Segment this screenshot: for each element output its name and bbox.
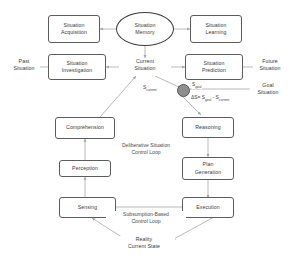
node-comprehension-label: Comprehension (66, 124, 104, 131)
node-situation-prediction[interactable]: SituationPrediction (185, 54, 243, 80)
node-comprehension[interactable]: Comprehension (55, 117, 115, 139)
label-delta-mid: - S (211, 95, 219, 100)
label-goal-situation: GoalSituation (250, 82, 286, 96)
label-deliberative-control-loop-text: Deliberative SituationControl Loop (122, 142, 170, 155)
node-current-situation-label: CurrentSituation (134, 58, 155, 71)
label-future-situation: FutureSituation (253, 58, 287, 72)
node-situation-acquisition-label: SituationAcquisition (61, 22, 87, 36)
label-reality-current-state: RealityCurrent State (113, 236, 175, 250)
node-perception-label: Perception (72, 165, 98, 172)
node-plan-generation[interactable]: PlanGeneration (182, 157, 234, 180)
node-situation-learning-label: SituationLearning (205, 22, 226, 36)
label-subsumption-control-loop-text: Subsumption-BasedControl Loop (123, 211, 169, 224)
label-deliberative-control-loop: Deliberative SituationControl Loop (106, 142, 186, 156)
label-goal-situation-text: GoalSituation (257, 82, 278, 95)
node-execution[interactable]: Execution (182, 197, 234, 218)
label-s-goal-subscript: goal (195, 85, 201, 89)
label-subsumption-control-loop: Subsumption-BasedControl Loop (106, 211, 186, 225)
diagram-canvas: SituationAcquisition SituationMemory Sit… (0, 0, 290, 257)
label-delta-s-equation: ΔS= Sgoal - Scurrent (191, 95, 229, 102)
label-past-situation-text: PastSituation (13, 58, 34, 71)
node-sensing-label: Sensing (78, 204, 97, 211)
node-situation-memory[interactable]: SituationMemory (116, 12, 174, 46)
node-situation-investigation[interactable]: SituationInvestigation (48, 54, 106, 80)
label-reality-current-state-text: RealityCurrent State (128, 236, 160, 249)
node-perception[interactable]: Perception (59, 160, 111, 177)
label-s-goal: Sgoal (192, 82, 202, 89)
label-delta-prefix: ΔS= S (191, 95, 205, 100)
node-situation-memory-label: SituationMemory (134, 22, 155, 36)
label-s-current-subscript: current (146, 88, 156, 92)
label-future-situation-text: FutureSituation (259, 58, 280, 71)
node-execution-label: Execution (196, 204, 220, 211)
node-situation-investigation-label: SituationInvestigation (62, 60, 92, 74)
edge-comprehension-to-current (100, 76, 136, 117)
node-reasoning[interactable]: Reasoning (182, 117, 234, 138)
node-situation-prediction-label: SituationPrediction (202, 60, 226, 74)
node-situation-learning[interactable]: SituationLearning (190, 15, 242, 43)
comparator-node[interactable] (177, 84, 190, 97)
node-plan-generation-label: PlanGeneration (195, 161, 222, 175)
label-s-current: Scurrent (143, 85, 157, 92)
label-past-situation: PastSituation (8, 58, 40, 72)
node-current-situation: CurrentSituation (119, 58, 171, 76)
node-reasoning-label: Reasoning (195, 124, 221, 131)
label-delta-sub-current: current (219, 98, 229, 102)
node-situation-acquisition[interactable]: SituationAcquisition (48, 15, 100, 43)
